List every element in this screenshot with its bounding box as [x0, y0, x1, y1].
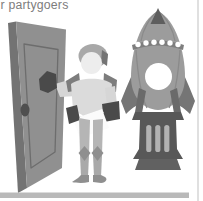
card-right-border [197, 0, 199, 201]
ground-bar [0, 193, 189, 199]
rocket-illustration [121, 8, 195, 170]
card-illustration: r partygoers [0, 0, 203, 201]
illustration-card[interactable]: r partygoers [0, 0, 203, 201]
rocket-collar [132, 112, 184, 120]
door-knob [21, 104, 30, 117]
rocket-porthole [145, 63, 172, 90]
knight-right-boot [93, 175, 106, 183]
knight-left-boot [72, 175, 89, 183]
door-illustration [8, 22, 66, 194]
rocket-engine-slots [146, 125, 169, 152]
knight-face [81, 52, 102, 74]
rocket-foot [135, 159, 181, 170]
card-title-fragment: r partygoers [1, 0, 69, 12]
